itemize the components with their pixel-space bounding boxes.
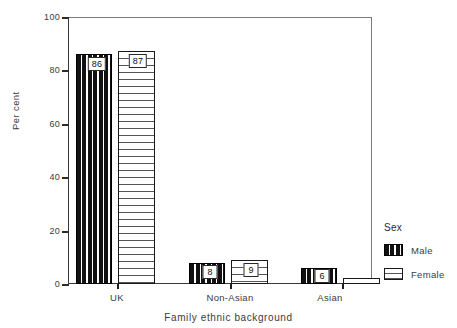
x-tick-non-asian — [230, 284, 232, 289]
legend-swatch-female-icon — [384, 268, 403, 280]
y-tick-label-20: 20 — [36, 227, 60, 236]
plot-area — [68, 17, 372, 284]
y-tick-80 — [62, 70, 69, 72]
bar-chart: 100 80 60 40 20 0 Per cent 86 87 8 9 6 U… — [0, 0, 457, 328]
x-axis-title: Family ethnic background — [0, 312, 457, 323]
value-label-non-asian-male: 8 — [203, 265, 218, 279]
x-tick-label-asian: Asian — [317, 292, 342, 303]
x-tick-uk — [117, 284, 119, 289]
value-label-asian-male: 6 — [315, 269, 330, 283]
x-tick-label-uk: UK — [110, 292, 124, 303]
legend-item-male[interactable]: Male — [384, 244, 456, 256]
y-tick-label-40: 40 — [36, 173, 60, 182]
x-tick-label-non-asian: Non-Asian — [206, 292, 253, 303]
x-axis-title-text: Family ethnic background — [164, 312, 292, 323]
y-axis-title: Per cent — [10, 91, 21, 130]
y-tick-label-0: 0 — [36, 280, 60, 289]
legend-label-male: Male — [411, 245, 433, 256]
y-tick-label-80: 80 — [36, 66, 60, 75]
legend-item-female[interactable]: Female — [384, 268, 456, 280]
bar-uk-male — [76, 54, 112, 284]
bar-uk-female — [118, 51, 155, 284]
y-tick-40 — [62, 177, 69, 179]
bar-asian-female — [343, 278, 380, 284]
y-tick-100 — [62, 17, 69, 19]
x-tick-asian — [342, 284, 344, 289]
value-label-uk-male: 86 — [88, 57, 106, 71]
legend-title: Sex — [384, 222, 456, 233]
legend-swatch-male-icon — [384, 244, 403, 256]
y-tick-label-60: 60 — [36, 120, 60, 129]
legend: Sex Male Female — [384, 222, 456, 292]
value-label-non-asian-female: 9 — [244, 263, 259, 277]
value-label-uk-female: 87 — [129, 54, 147, 68]
y-tick-60 — [62, 124, 69, 126]
y-tick-0 — [62, 284, 69, 286]
y-tick-label-100: 100 — [36, 13, 60, 22]
legend-label-female: Female — [411, 269, 444, 280]
y-tick-20 — [62, 231, 69, 233]
